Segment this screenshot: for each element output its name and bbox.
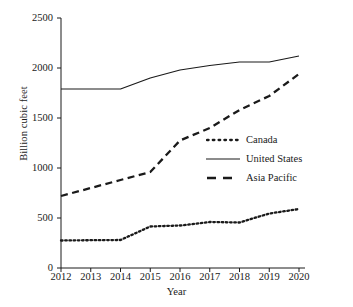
legend-label: Canada xyxy=(246,134,278,145)
x-tick-label: 2020 xyxy=(282,272,316,283)
y-tick-label: 2000 xyxy=(19,63,53,74)
x-axis-title: Year xyxy=(0,286,353,297)
line-chart: Billion cubic feet Year 0500100015002000… xyxy=(0,0,353,307)
legend-label: United States xyxy=(246,153,302,164)
legend-label: Asia Pacific xyxy=(246,172,297,183)
series-line-canada xyxy=(61,209,299,241)
legend-swatch-dashed-icon xyxy=(206,173,240,183)
legend-item: United States xyxy=(206,149,302,168)
series-line-united-states xyxy=(61,56,299,89)
legend-item: Canada xyxy=(206,130,302,149)
legend-swatch-dotted-icon xyxy=(206,135,240,145)
legend-item: Asia Pacific xyxy=(206,168,302,187)
legend-swatch-solid-icon xyxy=(206,154,240,164)
chart-legend: CanadaUnited StatesAsia Pacific xyxy=(206,130,302,187)
y-tick-label: 1000 xyxy=(19,163,53,174)
y-tick-label: 2500 xyxy=(19,13,53,24)
y-tick-label: 1500 xyxy=(19,113,53,124)
y-tick-label: 500 xyxy=(19,213,53,224)
